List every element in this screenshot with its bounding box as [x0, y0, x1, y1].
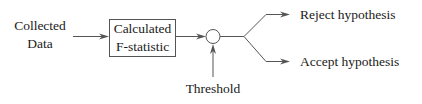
- accept-label: Accept hypothesis: [300, 54, 399, 69]
- input-label-line1: Collected: [14, 18, 66, 33]
- arrow-input-to-process: [73, 34, 109, 40]
- fork-connector: [220, 15, 286, 62]
- arrow-process-to-comparator: [176, 34, 207, 40]
- process-label-line1: Calculated: [114, 21, 172, 36]
- arrow-threshold-to-comparator: [210, 44, 216, 77]
- input-label-line2: Data: [27, 36, 52, 51]
- process-label-line2: F-statistic: [116, 39, 169, 54]
- threshold-label: Threshold: [186, 81, 241, 96]
- hypothesis-test-diagram: Collected Data Calculated F-statistic Th…: [0, 0, 422, 104]
- reject-label: Reject hypothesis: [300, 7, 396, 22]
- comparator-circle: [206, 30, 220, 44]
